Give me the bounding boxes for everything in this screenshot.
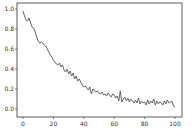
x-tick-label: 0 xyxy=(21,120,25,127)
y-tick-label: 0.6 xyxy=(4,45,14,52)
x-tick-label: 100 xyxy=(169,120,181,127)
x-tick-label: 20 xyxy=(50,120,58,127)
y-tick-label: 1.0 xyxy=(4,5,14,12)
plot-area xyxy=(17,3,182,117)
y-tick-label: 0.0 xyxy=(4,105,14,112)
y-tick-label: 0.2 xyxy=(4,85,14,92)
x-tick-label: 80 xyxy=(141,120,149,127)
x-tick-label: 60 xyxy=(110,120,118,127)
y-axis: 0.00.20.40.60.81.0 xyxy=(4,5,17,112)
y-tick-label: 0.4 xyxy=(4,65,14,72)
x-axis: 020406080100 xyxy=(21,117,181,127)
line-chart: 0.00.20.40.60.81.0 020406080100 xyxy=(0,0,192,133)
y-tick-label: 0.8 xyxy=(4,25,14,32)
x-tick-label: 40 xyxy=(80,120,88,127)
